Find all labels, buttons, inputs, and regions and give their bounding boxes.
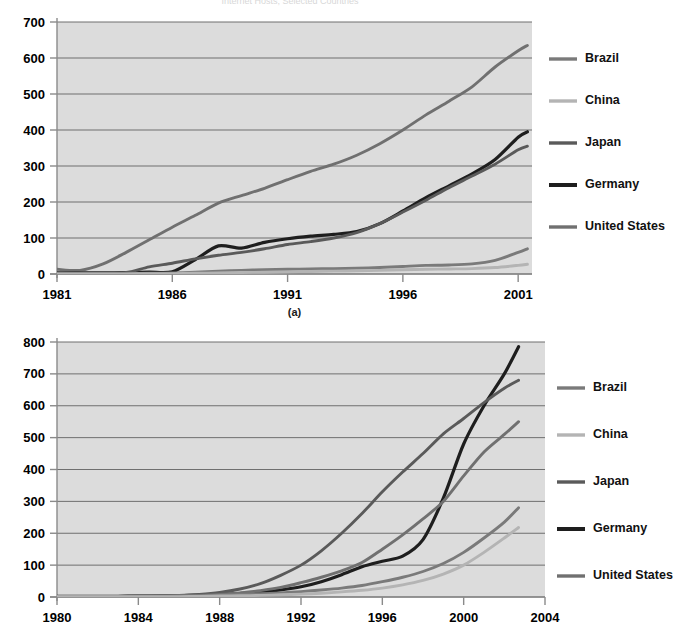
y-axis-tick-label: 0 — [38, 267, 45, 282]
x-axis-tick-label: 1996 — [388, 287, 417, 302]
x-axis-tick-label: 1988 — [205, 610, 234, 625]
legend-label-united-states: United States — [593, 568, 673, 582]
legend-label-brazil: Brazil — [593, 380, 627, 394]
y-axis-tick-label: 800 — [23, 335, 45, 350]
x-axis-tick-label: 2000 — [449, 610, 478, 625]
y-axis-tick-label: 500 — [23, 430, 45, 445]
legend-label-japan: Japan — [593, 474, 629, 488]
y-axis-tick-label: 400 — [23, 462, 45, 477]
legend-label-japan: Japan — [585, 135, 621, 149]
y-axis-tick-label: 300 — [23, 494, 45, 509]
x-axis-tick-label: 2004 — [531, 610, 561, 625]
legend-label-germany: Germany — [593, 521, 647, 535]
legend-label-brazil: Brazil — [585, 51, 619, 65]
y-axis-tick-label: 700 — [23, 366, 45, 381]
chart-page: Internet Hosts, Selected Countries010020… — [0, 0, 677, 636]
chart-legend: BrazilChinaJapanGermanyUnited States — [557, 380, 673, 582]
legend-label-germany: Germany — [585, 177, 639, 191]
y-axis-tick-label: 700 — [23, 15, 45, 30]
panel-caption: (a) — [288, 306, 302, 318]
y-axis-tick-label: 300 — [23, 159, 45, 174]
chart-legend: BrazilChinaJapanGermanyUnited States — [549, 51, 665, 233]
y-axis-tick-label: 0 — [38, 590, 45, 605]
figure-title-clipped: Internet Hosts, Selected Countries — [221, 0, 359, 6]
y-axis-tick-label: 600 — [23, 51, 45, 66]
y-axis-tick-label: 600 — [23, 398, 45, 413]
y-axis-tick-label: 400 — [23, 123, 45, 138]
y-axis-tick-label: 200 — [23, 526, 45, 541]
x-axis-tick-label: 1986 — [158, 287, 187, 302]
figure-panel-a: Internet Hosts, Selected Countries010020… — [0, 0, 677, 320]
x-axis-tick-label: 1991 — [273, 287, 302, 302]
x-axis-tick-label: 1980 — [43, 610, 72, 625]
x-axis-tick-label: 1996 — [368, 610, 397, 625]
y-axis-tick-label: 100 — [23, 231, 45, 246]
y-axis-tick-label: 100 — [23, 558, 45, 573]
legend-label-china: China — [585, 93, 621, 107]
legend-label-united-states: United States — [585, 219, 665, 233]
line-chart-panel-a: Internet Hosts, Selected Countries010020… — [0, 0, 677, 320]
y-axis-tick-label: 500 — [23, 87, 45, 102]
figure-panel-b: 0100200300400500600700800198019841988199… — [0, 320, 677, 636]
x-axis-tick-label: 1984 — [124, 610, 154, 625]
y-axis-tick-label: 200 — [23, 195, 45, 210]
line-chart-panel-b: 0100200300400500600700800198019841988199… — [0, 320, 677, 636]
legend-label-china: China — [593, 427, 629, 441]
x-axis-tick-label: 1981 — [43, 287, 72, 302]
x-axis-tick-label: 1992 — [287, 610, 316, 625]
x-axis-tick-label: 2001 — [504, 287, 533, 302]
